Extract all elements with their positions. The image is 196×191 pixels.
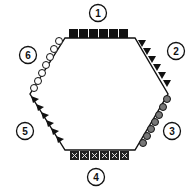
label-6: 6 [20,47,37,64]
label-2: 2 [168,43,185,60]
svg-text:6: 6 [25,50,31,61]
svg-text:3: 3 [169,126,175,137]
edge-4-crossed-squares [70,151,129,160]
label-3: 3 [164,123,181,140]
svg-text:2: 2 [173,46,179,57]
label-1: 1 [90,5,107,22]
hexagon-diagram: 1 2 3 4 5 6 [0,0,196,191]
label-4: 4 [88,169,105,186]
svg-text:4: 4 [93,172,99,183]
svg-text:1: 1 [95,8,101,19]
svg-text:5: 5 [22,126,28,137]
edge-1-squares [69,29,128,38]
label-5: 5 [17,123,34,140]
